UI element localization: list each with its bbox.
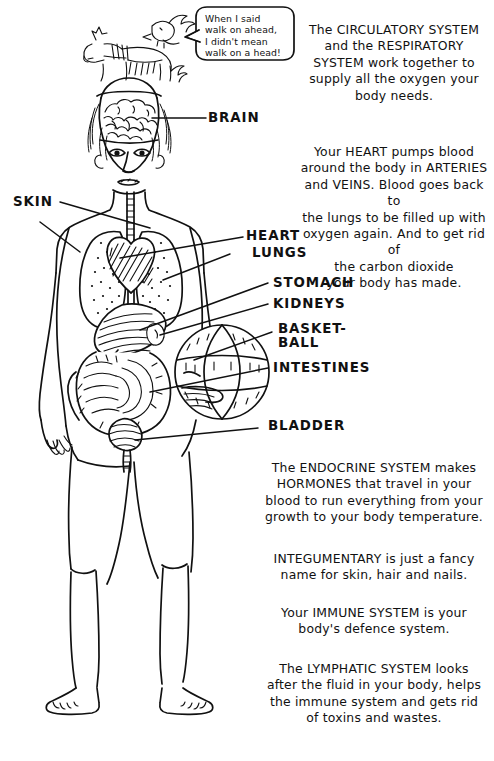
text-line: The CIRCULATORY SYSTEM: [296, 22, 492, 38]
text-line: after the fluid in your body, helps: [256, 677, 492, 693]
illustration-page: When I said walk on ahead, I didn't mean…: [0, 0, 494, 761]
text-line: The ENDOCRINE SYSTEM makes: [256, 460, 492, 476]
text-line: around the body in ARTERIES: [296, 160, 492, 176]
integumentary-text: INTEGUMENTARY is just a fancy name for s…: [256, 551, 492, 584]
organ-label-basketball-line2: BALL: [278, 336, 347, 350]
organ-label-skin: SKIN: [13, 194, 53, 209]
basketball: [175, 325, 269, 419]
text-line: the lungs to be filled up with: [296, 210, 492, 226]
organ-label-basketball-line1: BASKET-: [278, 322, 347, 336]
bubble-line-1: When I said: [205, 13, 291, 24]
text-line: oxygen again. And to get rid of: [296, 226, 492, 259]
bird-figure: [143, 15, 195, 48]
organ-label-basketball: BASKET- BALL: [278, 322, 347, 349]
organ-label-bladder: BLADDER: [268, 418, 345, 433]
donkey-figure: [84, 27, 187, 82]
bubble-line-2: walk on ahead,: [205, 24, 291, 35]
text-line: name for skin, hair and nails.: [256, 567, 492, 583]
text-line: body needs.: [296, 88, 492, 104]
bubble-line-4: walk on a head!: [205, 47, 291, 58]
text-line: supply all the oxygen your: [296, 71, 492, 87]
text-line: Your HEART pumps blood: [296, 144, 492, 160]
text-line: The LYMPHATIC SYSTEM looks: [256, 661, 492, 677]
text-line: blood to run everything from your: [256, 493, 492, 509]
text-line: INTEGUMENTARY is just a fancy: [256, 551, 492, 567]
bubble-line-3: I didn't mean: [205, 36, 291, 47]
text-line: the immune system and gets rid: [256, 694, 492, 710]
organ-label-intestines: INTESTINES: [273, 360, 370, 375]
speech-bubble-text: When I said walk on ahead, I didn't mean…: [205, 13, 291, 58]
text-line: body's defence system.: [256, 621, 492, 637]
text-line: growth to your body temperature.: [256, 509, 492, 525]
head-with-brain: [88, 78, 171, 194]
text-line: and VEINS. Blood goes back to: [296, 177, 492, 210]
endocrine-text: The ENDOCRINE SYSTEM makes HORMONES that…: [256, 460, 492, 526]
text-line: SYSTEM work together to: [296, 55, 492, 71]
bladder-organ: [109, 419, 142, 472]
text-line: and the RESPIRATORY: [296, 38, 492, 54]
text-line: HORMONES that travel in your: [256, 476, 492, 492]
text-line: the carbon dioxide: [296, 259, 492, 275]
lymphatic-text: The LYMPHATIC SYSTEM looks after the flu…: [256, 661, 492, 727]
heart-blood-text: Your HEART pumps blood around the body i…: [296, 144, 492, 291]
organ-label-brain: BRAIN: [208, 110, 260, 125]
organ-label-kidneys: KIDNEYS: [273, 296, 345, 311]
immune-text: Your IMMUNE SYSTEM is your body's defenc…: [256, 605, 492, 638]
text-line: your body has made.: [296, 275, 492, 291]
organ-label-heart: HEART: [246, 228, 300, 243]
text-line: Your IMMUNE SYSTEM is your: [256, 605, 492, 621]
circulatory-respiratory-text: The CIRCULATORY SYSTEM and the RESPIRATO…: [296, 22, 492, 104]
text-line: of toxins and wastes.: [256, 710, 492, 726]
